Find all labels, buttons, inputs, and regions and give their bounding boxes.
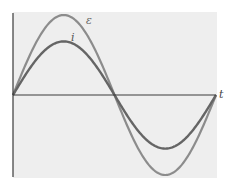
current-label: i bbox=[71, 32, 75, 43]
time-axis-label: t bbox=[219, 89, 223, 100]
emf-label: ε bbox=[86, 15, 92, 26]
ac-circuit-diagram bbox=[0, 0, 231, 185]
